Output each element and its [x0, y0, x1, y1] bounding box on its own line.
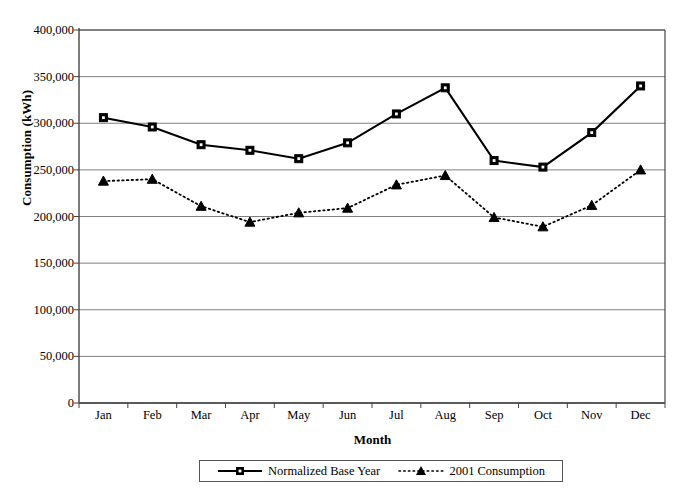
x-tick-label-jul: Jul [373, 408, 419, 423]
x-tick-label-sep: Sep [471, 408, 517, 423]
marker-triangle [147, 174, 157, 183]
marker-triangle [440, 170, 450, 179]
x-tick-label-dec: Dec [618, 408, 664, 423]
marker-square-center [639, 85, 642, 88]
x-tick-label-oct: Oct [520, 408, 566, 423]
marker-square [344, 139, 352, 147]
marker-square [441, 84, 449, 92]
marker-triangle [98, 176, 108, 185]
marker-triangle [196, 201, 206, 210]
marker-square-center [151, 126, 154, 129]
legend-square-center [239, 470, 242, 473]
marker-square [490, 157, 498, 165]
x-tick-label-aug: Aug [422, 408, 468, 423]
x-axis-title: Month [79, 432, 666, 448]
x-tick-label-jan: Jan [80, 408, 126, 423]
x-tick-label-may: May [276, 408, 322, 423]
marker-square-center [493, 159, 496, 162]
marker-square [295, 155, 303, 163]
legend-label: Normalized Base Year [268, 464, 380, 479]
marker-square-center [249, 149, 252, 152]
legend-entry-1: Normalized Base Year [217, 464, 380, 479]
marker-square [637, 82, 645, 90]
legend-label: 2001 Consumption [449, 464, 545, 479]
x-tick-label-feb: Feb [129, 408, 175, 423]
marker-square [99, 114, 107, 122]
marker-square-center [200, 143, 203, 146]
marker-square [588, 129, 596, 137]
x-tick-label-apr: Apr [227, 408, 273, 423]
legend-entry-2: 2001 Consumption [398, 464, 545, 479]
marker-square-center [542, 166, 545, 169]
marker-square [539, 163, 547, 171]
chart-legend: Normalized Base Year2001 Consumption [199, 460, 563, 482]
marker-triangle [587, 200, 597, 209]
x-tick-label-mar: Mar [178, 408, 224, 423]
marker-square-center [102, 116, 105, 119]
marker-square [392, 110, 400, 118]
marker-square [246, 146, 254, 154]
marker-square [148, 123, 156, 131]
marker-square-center [590, 131, 593, 134]
marker-square-center [395, 113, 398, 116]
legend-square-marker-icon [217, 464, 263, 478]
consumption-line-chart: Consumption (kWh) 050,000100,000150,0002… [0, 0, 679, 497]
x-tick-label-jun: Jun [325, 408, 371, 423]
legend-triangle-marker-icon [398, 464, 444, 478]
series-line-1 [103, 86, 640, 167]
marker-square-center [297, 157, 300, 160]
marker-square [197, 141, 205, 149]
marker-square-center [444, 86, 447, 89]
x-tick-label-nov: Nov [569, 408, 615, 423]
series-line-2 [103, 170, 640, 227]
marker-triangle [294, 208, 304, 217]
marker-triangle [343, 203, 353, 212]
marker-square-center [346, 141, 349, 144]
